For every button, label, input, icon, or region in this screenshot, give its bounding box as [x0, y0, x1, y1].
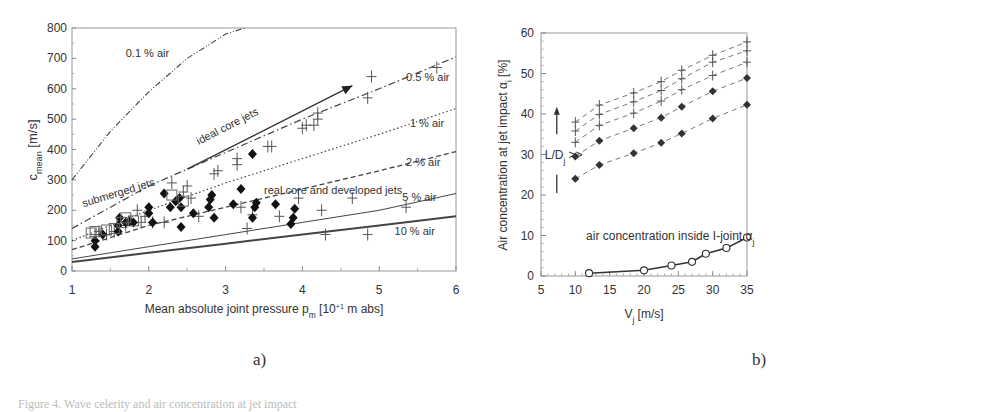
diamond-marker: [248, 149, 257, 159]
x-tick-label: 3: [222, 283, 229, 297]
plus-marker: [132, 204, 142, 216]
plus-marker: [595, 100, 603, 110]
diamond-marker: [630, 124, 638, 132]
x-axis-ticks-b: 5101520253035: [538, 271, 754, 297]
chart-a: 123456 0100200300400500600700800 0.1 % a…: [25, 21, 460, 320]
plus-marker: [186, 192, 196, 204]
open-circle-marker: [641, 267, 648, 274]
y-tick-label: 50: [521, 67, 535, 81]
figure-caption: Figure 4. Wave celerity and air concentr…: [18, 397, 297, 412]
curve-0-5-air: [72, 57, 456, 229]
x-tick-label: 15: [603, 283, 617, 297]
plus-marker: [363, 92, 373, 104]
diamond-marker: [595, 137, 603, 145]
plus-marker: [657, 96, 665, 106]
x-tick-label: 4: [299, 283, 306, 297]
annotation-5-air: 5 % air: [402, 191, 437, 203]
x-tick-label: 2: [145, 283, 152, 297]
y-axis-label-a: cmean [m/s]: [25, 119, 44, 180]
y-tick-label: 30: [521, 148, 535, 162]
plus-marker: [595, 109, 603, 119]
plus-marker: [743, 57, 751, 67]
diamond-marker: [236, 184, 245, 194]
y-tick-label: 200: [47, 203, 67, 217]
y-tick-label: 500: [47, 112, 67, 126]
plus-marker: [630, 88, 638, 98]
annotation-2-air: 2 % air: [406, 156, 441, 168]
panel-b-label: b): [752, 350, 766, 370]
y-axis-label-b: Air concentration at jet impact αi [%]: [496, 60, 514, 251]
annotations-a: 0.1 % air0.5 % air1 % air2 % air5 % air1…: [81, 47, 450, 237]
annotation-1-air: 1 % air: [410, 117, 445, 129]
diamond-marker: [290, 204, 299, 214]
plus-marker: [232, 153, 242, 165]
diamond-marker: [743, 74, 751, 82]
diamond-marker: [571, 175, 579, 183]
plus-marker: [367, 71, 377, 83]
open-circle-marker: [702, 250, 709, 257]
x-tick-label: 5: [538, 283, 545, 297]
plus-marker: [167, 177, 177, 189]
plus-marker: [709, 71, 717, 81]
y-axis-ticks-b: 0102030405060: [521, 26, 546, 283]
plus-marker: [630, 97, 638, 107]
annotation-10-air: 10 % air: [395, 225, 436, 237]
arrow-head-icon: [554, 107, 560, 115]
diamond-marker: [678, 129, 686, 137]
open-circle-marker: [668, 262, 675, 269]
x-axis-label-a: Mean absolute joint pressure pm [10+1 m …: [145, 302, 384, 321]
y-tick-label: 60: [521, 26, 535, 40]
y-tick-label: 700: [47, 51, 67, 65]
annotation-ideal-core-jets: ideal core jets: [194, 105, 260, 147]
x-tick-label: 30: [706, 283, 720, 297]
diamond-marker: [657, 114, 665, 122]
open-circle-marker: [586, 270, 593, 277]
diamond-marker: [91, 236, 100, 246]
plus-marker: [363, 229, 373, 241]
diamond-marker: [743, 101, 751, 109]
chart-b: 5101520253035 0102030405060 L/Dj >>air c…: [496, 26, 754, 325]
diamond-marker: [630, 149, 638, 157]
panel-a-label: a): [253, 350, 266, 370]
series-line-ijoint: [589, 238, 747, 274]
y-tick-label: 400: [47, 143, 67, 157]
open-circle-marker: [723, 245, 730, 252]
annotation-0-1-air: 0.1 % air: [126, 47, 170, 59]
diamond-marker: [595, 161, 603, 169]
y-tick-label: 40: [521, 107, 535, 121]
plus-marker: [595, 120, 603, 130]
x-axis-label-b: Vj [m/s]: [624, 307, 663, 325]
diamond-marker: [709, 114, 717, 122]
x-tick-label: 10: [569, 283, 583, 297]
plus-marker: [743, 37, 751, 47]
plus-marker: [630, 108, 638, 118]
plus-marker: [657, 77, 665, 87]
plus-marker: [678, 74, 686, 84]
ijoint-annotation: air concentration inside I-joint αj: [586, 229, 754, 247]
x-tick-label: 5: [376, 283, 383, 297]
x-tick-label: 20: [637, 283, 651, 297]
plus-marker: [320, 229, 330, 241]
plus-marker: [709, 57, 717, 67]
diamond-marker: [657, 139, 665, 147]
data-points-a: [86, 61, 442, 251]
ld-annotation: L/Dj >>: [545, 148, 583, 166]
open-circle-marker: [689, 258, 696, 265]
annotation-real-core-and-developed-jets: real core and developed jets: [264, 184, 403, 196]
diamond-marker: [709, 87, 717, 95]
plus-marker: [657, 86, 665, 96]
y-tick-label: 600: [47, 82, 67, 96]
plus-marker: [313, 107, 323, 119]
plus-marker: [274, 210, 284, 222]
y-tick-label: 0: [60, 264, 67, 278]
diamond-marker: [166, 202, 175, 212]
y-tick-label: 0: [527, 269, 534, 283]
x-tick-label: 1: [69, 283, 76, 297]
plus-marker: [242, 222, 252, 234]
y-tick-label: 800: [47, 21, 67, 35]
plus-marker: [317, 204, 327, 216]
diamond-marker: [678, 103, 686, 111]
plus-marker: [571, 126, 579, 136]
x-tick-label: 25: [672, 283, 686, 297]
